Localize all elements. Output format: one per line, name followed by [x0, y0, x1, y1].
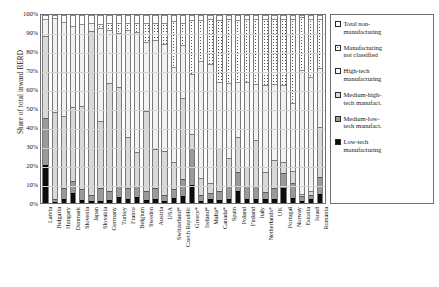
- bar-segment-mhigh: [144, 111, 148, 191]
- bar-segment-high: [89, 23, 93, 31]
- stacked-bar[interactable]: [134, 15, 140, 203]
- x-label-slot: Bulgaria: [49, 206, 58, 284]
- x-label-slot: Estonia: [298, 206, 307, 284]
- stacked-bar[interactable]: [171, 15, 177, 203]
- stacked-bar[interactable]: [253, 15, 259, 203]
- stacked-bar[interactable]: [189, 15, 195, 203]
- legend-item[interactable]: Medium-high-tech manufact.: [335, 91, 430, 106]
- x-label-slot: Norway: [289, 206, 298, 284]
- bar-slot: [151, 15, 160, 203]
- stacked-bar[interactable]: [125, 15, 131, 203]
- bar-segment-high: [62, 22, 66, 116]
- stacked-bar[interactable]: [52, 15, 58, 203]
- stacked-bar[interactable]: [271, 15, 277, 203]
- bar-segment-notcl: [199, 20, 203, 61]
- bar-segment-low: [199, 201, 203, 203]
- stacked-bar[interactable]: [152, 15, 158, 203]
- bar-segment-notcl: [208, 19, 212, 64]
- bar-segment-mlow: [62, 188, 66, 199]
- stacked-bar[interactable]: [161, 15, 167, 203]
- stacked-bar[interactable]: [143, 15, 149, 203]
- stacked-bar[interactable]: [308, 15, 314, 203]
- stacked-bar[interactable]: [106, 15, 112, 203]
- x-label-slot: USA: [160, 206, 169, 284]
- stacked-bar[interactable]: [299, 15, 305, 203]
- bar-segment-low: [272, 199, 276, 203]
- stacked-bar[interactable]: [79, 15, 85, 203]
- y-tick-label: 40%: [26, 125, 38, 132]
- bar-segment-mhigh: [318, 127, 322, 177]
- bar-slot: [142, 15, 151, 203]
- bar-segment-high: [318, 68, 322, 127]
- bar-segment-high: [300, 70, 304, 194]
- bar-segment-nonman: [107, 15, 111, 23]
- stacked-bar[interactable]: [97, 15, 103, 203]
- plot-area: [40, 14, 326, 204]
- x-label-slot: Greece*: [188, 206, 197, 284]
- stacked-bar[interactable]: [262, 15, 268, 203]
- bar-segment-mlow: [107, 191, 111, 200]
- bar-slot: [68, 15, 77, 203]
- bar-segment-mlow: [172, 189, 176, 198]
- stacked-bars: [41, 15, 325, 203]
- legend-item[interactable]: High-techmanufacturing: [335, 67, 430, 82]
- bar-slot: [197, 15, 206, 203]
- bar-segment-mlow: [117, 186, 121, 197]
- stacked-bar[interactable]: [216, 15, 222, 203]
- legend-label: Manufacturingnot classified: [344, 44, 383, 59]
- bar-segment-low: [153, 199, 157, 203]
- stacked-bar[interactable]: [280, 15, 286, 203]
- bar-segment-nonman: [144, 15, 148, 23]
- bar-segment-mhigh: [162, 151, 166, 195]
- x-label-slot: Denmark: [68, 206, 77, 284]
- bar-segment-low: [53, 202, 57, 203]
- bar-segment-notcl: [107, 23, 111, 31]
- y-tick-label: 0%: [29, 201, 38, 208]
- x-label-slot: Netherlands*: [261, 206, 270, 284]
- stacked-bar[interactable]: [198, 15, 204, 203]
- legend-item[interactable]: Low-techmanufacturing: [335, 138, 430, 153]
- bar-slot: [123, 15, 132, 203]
- bar-segment-mhigh: [43, 36, 47, 119]
- stacked-bar[interactable]: [290, 15, 296, 203]
- bar-segment-mlow: [153, 188, 157, 199]
- bar-segment-notcl: [144, 23, 148, 42]
- y-tick-label: 20%: [26, 163, 38, 170]
- x-label-slot: Poland: [234, 206, 243, 284]
- stacked-bar[interactable]: [226, 15, 232, 203]
- stacked-bar[interactable]: [207, 15, 213, 203]
- legend-item[interactable]: Total non-manufacturing: [335, 20, 430, 35]
- stacked-bar[interactable]: [244, 15, 250, 203]
- bar-slot: [114, 15, 123, 203]
- bar-segment-mlow: [135, 186, 139, 197]
- stacked-bar[interactable]: [116, 15, 122, 203]
- stacked-bar[interactable]: [88, 15, 94, 203]
- y-tick-label: 80%: [26, 49, 38, 56]
- bar-segment-notcl: [300, 17, 304, 70]
- stacked-bar[interactable]: [180, 15, 186, 203]
- stacked-bar[interactable]: [70, 15, 76, 203]
- stacked-bar[interactable]: [61, 15, 67, 203]
- y-axis-ticks: 0%10%20%30%40%50%60%70%80%90%100%: [8, 14, 38, 204]
- bar-slot: [78, 15, 87, 203]
- bar-segment-mhigh: [126, 137, 130, 188]
- bar-segment-notcl: [126, 23, 130, 31]
- bar-segment-low: [107, 200, 111, 203]
- x-axis-labels: LatviaBulgariaHungaryDenmarkSloveniaJapa…: [40, 206, 326, 284]
- bar-segment-low: [208, 199, 212, 203]
- bar-slot: [41, 15, 50, 203]
- x-label-slot: Ireland*: [197, 206, 206, 284]
- stacked-bar[interactable]: [235, 15, 241, 203]
- stacked-bar[interactable]: [42, 15, 48, 203]
- legend-item[interactable]: Medium-low-tech manufact.: [335, 115, 430, 130]
- stacked-bar[interactable]: [317, 15, 323, 203]
- bar-segment-mlow: [43, 118, 47, 165]
- bar-segment-notcl: [117, 23, 121, 32]
- legend-item[interactable]: Manufacturingnot classified: [335, 44, 430, 59]
- x-label-slot: Romania: [317, 206, 326, 284]
- gridline: [41, 167, 325, 168]
- legend-swatch-mlow: [335, 116, 341, 122]
- gridline: [41, 110, 325, 111]
- bar-slot: [206, 15, 215, 203]
- bar-segment-notcl: [254, 19, 258, 84]
